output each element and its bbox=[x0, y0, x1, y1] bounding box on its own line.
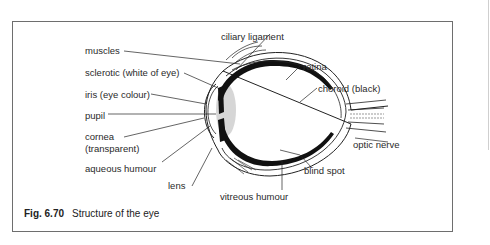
label-blind-spot: blind spot bbox=[304, 165, 345, 176]
figure-number: Fig. 6.70 bbox=[24, 208, 64, 219]
label-cornea-note: (transparent) bbox=[85, 143, 139, 154]
figure-caption: Fig. 6.70Structure of the eye bbox=[24, 208, 159, 219]
label-cornea: cornea bbox=[85, 131, 114, 142]
label-pupil: pupil bbox=[85, 110, 105, 121]
label-ciliary-ligament: ciliary ligament bbox=[221, 31, 284, 42]
label-sclerotic: sclerotic (white of eye) bbox=[85, 67, 180, 78]
figure-title: Structure of the eye bbox=[72, 208, 159, 219]
label-lens: lens bbox=[168, 180, 185, 191]
label-iris: iris (eye colour) bbox=[85, 89, 150, 100]
optic-nerve-shape bbox=[346, 100, 386, 132]
label-vitreous-humour: vitreous humour bbox=[220, 191, 288, 202]
label-choroid: choroid (black) bbox=[318, 83, 380, 94]
label-aqueous-humour: aqueous humour bbox=[85, 163, 156, 174]
label-optic-nerve: optic nerve bbox=[353, 139, 399, 150]
label-muscles: muscles bbox=[85, 45, 120, 56]
label-retina: retina bbox=[303, 61, 327, 72]
iris-shape bbox=[218, 86, 224, 114]
